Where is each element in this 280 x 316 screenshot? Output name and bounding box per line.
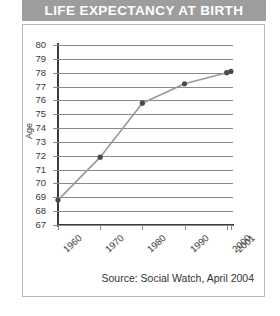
y-axis-tick [53,100,58,101]
x-axis-tick [227,226,228,230]
y-axis-label: 72 [24,151,46,161]
y-axis-label: 75 [24,109,46,119]
x-axis-tick [142,226,143,230]
y-axis-tick [53,45,58,46]
chart-title-band: LIFE EXPECTANCY AT BIRTH [22,0,266,21]
gridline [58,156,233,157]
y-axis-label: 80 [24,40,46,50]
y-axis-label: 68 [24,206,46,216]
y-axis-tick [53,87,58,88]
gridline [58,59,233,60]
y-axis-tick [53,183,58,184]
gridline [58,114,233,115]
y-axis-label: 79 [24,54,46,64]
y-axis-tick [53,73,58,74]
y-axis-label: 77 [24,82,46,92]
x-axis-tick [231,226,232,230]
page-title: LIFE EXPECTANCY AT BIRTH [45,3,244,18]
y-axis-label: 70 [24,178,46,188]
gridline [58,197,233,198]
y-axis-label: 69 [24,192,46,202]
gridline [58,183,233,184]
gridline [58,45,233,46]
y-axis-tick [53,142,58,143]
gridline [58,170,233,171]
x-axis-tick [58,226,59,230]
y-axis-label: 74 [24,123,46,133]
x-axis-tick [100,226,101,230]
y-axis-tick [53,197,58,198]
y-axis-tick [53,59,58,60]
y-axis-label: 78 [24,68,46,78]
y-axis-label: 71 [24,165,46,175]
y-axis-tick [53,114,58,115]
x-axis-tick [185,226,186,230]
y-axis-label: 76 [24,95,46,105]
plot-area: 8079787776757473727170696867 [58,45,233,225]
life-expectancy-chart-figure: LIFE EXPECTANCY AT BIRTH Age 80797877767… [0,0,280,316]
gridline [58,100,233,101]
y-axis-tick [53,211,58,212]
y-axis-label: 73 [24,137,46,147]
source-note: Source: Social Watch, April 2004 [22,272,254,284]
gridline [58,225,233,226]
gridline [58,142,233,143]
gridline [58,87,233,88]
y-axis-tick [53,156,58,157]
gridline [58,128,233,129]
y-axis-label: 67 [24,220,46,230]
y-axis-tick [53,128,58,129]
y-axis-tick [53,170,58,171]
gridline [58,211,233,212]
gridline [58,73,233,74]
